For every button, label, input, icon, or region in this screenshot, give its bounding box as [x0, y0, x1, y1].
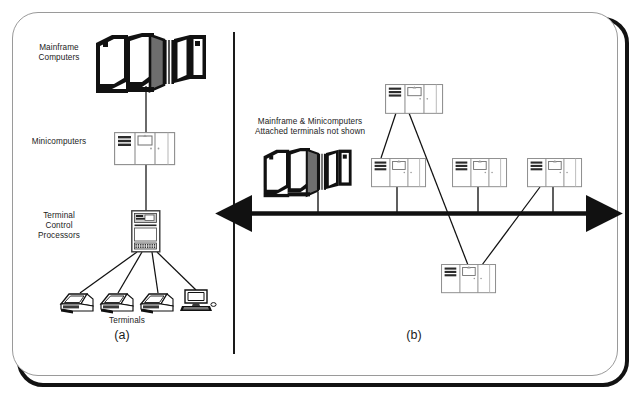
label-mainframe-and-minicomputers: Mainframe & Minicomputers Attached termi…	[242, 117, 378, 137]
link-tcp-terminal-2	[118, 252, 142, 293]
link-tcp-terminal-1	[80, 252, 137, 293]
label-terminal-control-processors: Terminal Control Processors	[16, 211, 102, 241]
minicomputer-icon-b2	[372, 159, 426, 187]
label-terminals: Terminals	[92, 316, 162, 326]
mainframe-icon-b	[264, 148, 352, 197]
label-minicomputers: Minicomputers	[16, 137, 102, 147]
minicomputer-icon-b1	[386, 85, 443, 114]
terminal-control-processor-icon	[132, 211, 160, 252]
mainframe-icon	[96, 33, 206, 93]
link-mini1-mini2	[381, 113, 396, 158]
link-tcp-terminal-4	[157, 252, 196, 290]
label-mainframe-computers: Mainframe Computers	[16, 43, 102, 63]
terminal-icon-4	[180, 290, 216, 311]
terminal-icon-3	[141, 294, 173, 314]
minicomputer-icon-b5	[442, 265, 496, 293]
minicomputer-icon-b3	[453, 159, 507, 187]
panel-b-letter: (b)	[394, 328, 434, 342]
minicomputer-icon	[115, 133, 175, 165]
terminal-icon-2	[101, 294, 133, 314]
link-mini1-mini5	[409, 113, 468, 265]
link-mini4-mini5	[482, 187, 540, 265]
minicomputer-icon-b4	[528, 159, 582, 187]
terminal-icon-1	[61, 294, 93, 314]
panel-a-links	[80, 86, 196, 293]
link-tcp-terminal-3	[152, 252, 158, 293]
panel-a-letter: (a)	[102, 328, 142, 342]
figure-canvas: Mainframe Computers Minicomputers Termin…	[0, 0, 630, 393]
